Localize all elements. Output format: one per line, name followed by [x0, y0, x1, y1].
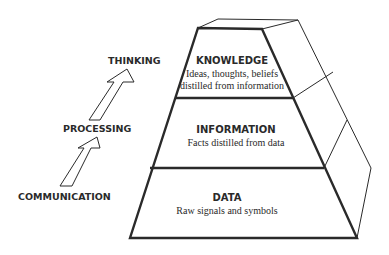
- level-title-information: INFORMATION: [196, 124, 275, 135]
- level-data: DATA Raw signals and symbols: [176, 192, 277, 216]
- process-label-processing: PROCESSING: [63, 123, 132, 134]
- level-knowledge: KNOWLEDGE Ideas, thoughts, beliefs disti…: [180, 55, 284, 91]
- level-desc-knowledge-line2: distilled from information: [180, 80, 284, 91]
- level-desc-data: Raw signals and symbols: [176, 205, 277, 216]
- dikw-pyramid-diagram: KNOWLEDGE Ideas, thoughts, beliefs disti…: [0, 0, 389, 255]
- process-label-thinking: THINKING: [108, 55, 161, 66]
- level-information: INFORMATION Facts distilled from data: [188, 124, 285, 148]
- level-title-knowledge: KNOWLEDGE: [196, 55, 268, 66]
- level-title-data: DATA: [212, 192, 241, 203]
- level-desc-information: Facts distilled from data: [188, 137, 285, 148]
- arrow-up-icon: [89, 69, 134, 120]
- level-desc-knowledge-line1: Ideas, thoughts, beliefs: [186, 68, 278, 79]
- arrow-up-icon: [60, 137, 100, 186]
- process-label-communication: COMMUNICATION: [18, 191, 111, 202]
